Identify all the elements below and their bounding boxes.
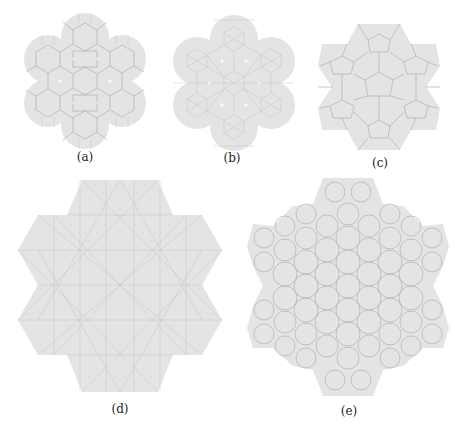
panel-b-label: (b)	[212, 151, 252, 165]
panel-c-label: (c)	[360, 156, 400, 170]
tiling-c-diagram	[318, 22, 440, 152]
panel-c	[318, 22, 440, 152]
panel-e	[243, 176, 453, 398]
tiling-e-diagram	[243, 176, 453, 398]
panel-d	[18, 178, 222, 394]
panel-a-label: (a)	[65, 150, 105, 164]
panel-b	[168, 12, 300, 152]
panel-d-label: (d)	[100, 402, 140, 416]
tiling-d-diagram	[18, 178, 222, 394]
panel-e-label: (e)	[329, 404, 369, 418]
tiling-b-diagram	[168, 12, 300, 152]
panel-a	[18, 10, 152, 152]
tiling-a-diagram	[18, 10, 152, 152]
